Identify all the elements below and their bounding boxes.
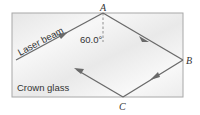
medium-label: Crown glass: [17, 82, 70, 93]
point-a-label: A: [99, 2, 107, 13]
total-internal-reflection-diagram: Laser beam 60.0° Crown glass A B C: [0, 0, 200, 115]
point-b-label: B: [186, 55, 192, 66]
point-c-label: C: [119, 101, 126, 112]
angle-label: 60.0°: [80, 34, 102, 45]
